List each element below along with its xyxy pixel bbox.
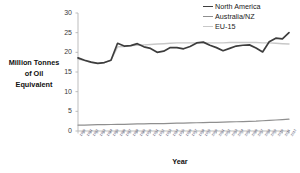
y-tick-label: 5 xyxy=(56,107,72,114)
y-tick-label: 25 xyxy=(56,29,72,36)
chart-legend: North AmericaAustralia/NZEU-15 xyxy=(203,2,298,32)
y-axis-title-line-3: Equivalent xyxy=(2,79,66,90)
series-lines xyxy=(78,33,289,125)
chart-container: 051015202530 198019811982198319841985198… xyxy=(0,0,300,173)
legend-item[interactable]: Australia/NZ xyxy=(203,12,298,21)
x-axis-title: Year xyxy=(150,157,210,166)
legend-swatch-icon xyxy=(203,6,213,7)
series-line-north-america xyxy=(78,33,289,64)
legend-swatch-icon xyxy=(203,16,213,17)
legend-item[interactable]: EU-15 xyxy=(203,22,298,31)
legend-item-label: EU-15 xyxy=(215,22,235,31)
y-axis-title: Million Tonnes of Oil Equivalent xyxy=(2,57,66,90)
y-tick-label: 0 xyxy=(56,127,72,134)
legend-swatch-icon xyxy=(203,26,213,27)
y-tick-label: 30 xyxy=(56,9,72,16)
y-axis-title-line-2: of Oil xyxy=(2,68,66,79)
legend-item[interactable]: North America xyxy=(203,2,298,11)
y-axis-title-line-1: Million Tonnes xyxy=(2,57,66,68)
y-tick-label: 20 xyxy=(56,48,72,55)
legend-item-label: Australia/NZ xyxy=(215,12,255,21)
series-line-australia-nz xyxy=(78,119,289,125)
legend-item-label: North America xyxy=(215,2,261,11)
